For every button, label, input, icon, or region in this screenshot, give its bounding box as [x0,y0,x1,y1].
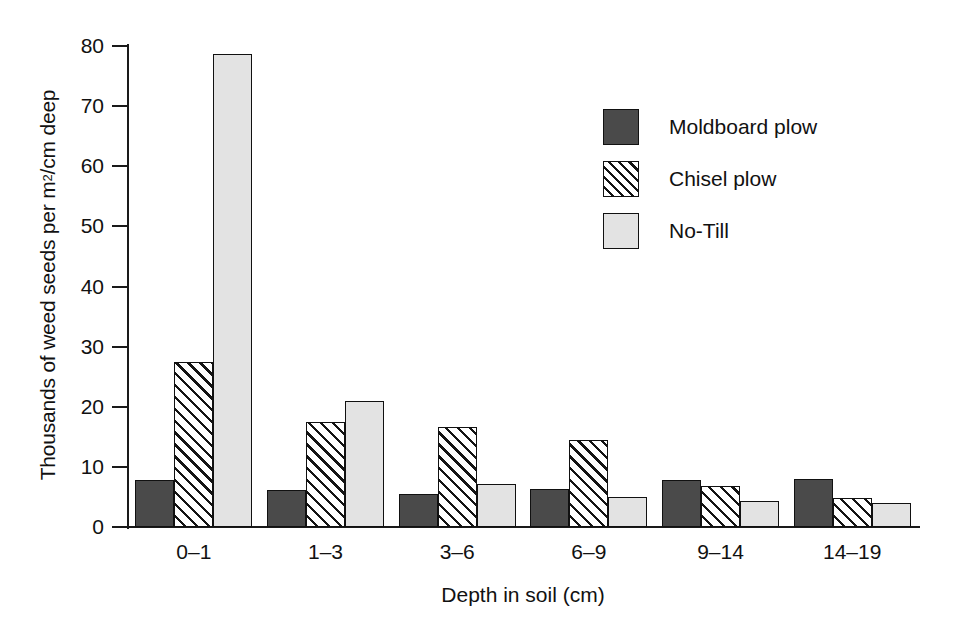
bar [306,422,345,527]
bar [174,362,213,527]
legend-item: No-Till [603,205,817,257]
legend-swatch-moldboard [603,109,639,145]
x-axis-tick-label: 14–19 [786,541,918,562]
y-axis-tick-label: 80 [48,35,104,56]
bar [477,484,516,527]
legend-label: No-Till [669,219,729,243]
bar [267,490,306,527]
bar [345,401,384,527]
bar-group [399,46,516,527]
bar [662,480,701,527]
y-axis-tick-label: 0 [48,516,104,537]
bar [530,489,569,527]
y-axis-tick-label: 10 [48,456,104,477]
bar [740,501,779,527]
y-axis-tick [112,225,128,227]
bar [833,498,872,527]
x-axis-tick-label: 9–14 [655,541,787,562]
legend-swatch-chisel [603,161,639,197]
bar [701,486,740,527]
y-axis-tick-label: 70 [48,95,104,116]
y-axis-tick [112,466,128,468]
bar [213,54,252,527]
y-axis-tick-label: 50 [48,215,104,236]
y-axis-tick [112,286,128,288]
bar-chart-figure: Thousands of weed seeds per m2/cm deep 0… [0,0,977,625]
y-axis-tick-label: 60 [48,155,104,176]
y-axis-tick [112,406,128,408]
bar-group [267,46,384,527]
x-axis-title: Depth in soil (cm) [128,583,918,607]
legend-item: Chisel plow [603,153,817,205]
x-axis-tick-label: 6–9 [523,541,655,562]
bar [135,480,174,527]
y-axis-tick [112,165,128,167]
y-axis-tick-label: 40 [48,276,104,297]
bar [608,497,647,527]
bar [794,479,833,527]
bar [399,494,438,527]
y-axis-tick-label: 30 [48,336,104,357]
legend-label: Chisel plow [669,167,776,191]
legend: Moldboard plowChisel plowNo-Till [603,101,817,257]
legend-swatch-notill [603,213,639,249]
y-axis-tick [112,45,128,47]
bar [438,427,477,527]
y-axis-tick [112,105,128,107]
y-axis-tick [112,346,128,348]
bar-group [135,46,252,527]
bar [872,503,911,527]
legend-item: Moldboard plow [603,101,817,153]
x-axis-tick-label: 1–3 [260,541,392,562]
x-axis-tick-label: 0–1 [128,541,260,562]
bar [569,440,608,527]
y-axis-tick-label: 20 [48,396,104,417]
x-axis-tick-label: 3–6 [391,541,523,562]
legend-label: Moldboard plow [669,115,817,139]
y-axis-tick [112,526,128,528]
